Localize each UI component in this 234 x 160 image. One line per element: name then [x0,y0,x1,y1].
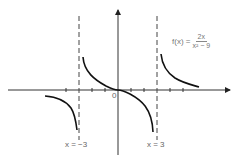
function-formula: f(x) = 2x x² − 9 [172,33,210,50]
asymptote-left-label: x = −3 [65,140,87,149]
formula-fraction: 2x x² − 9 [192,33,210,50]
formula-lhs: f(x) = [172,37,190,46]
asymptote-right-label: x = 3 [147,140,165,149]
function-graph [0,0,234,160]
curve-right-branch [161,54,199,87]
origin-label: 0 [112,91,116,100]
formula-numerator: 2x [196,33,207,42]
formula-denominator: x² − 9 [192,42,210,50]
curve-left-branch [45,96,77,130]
